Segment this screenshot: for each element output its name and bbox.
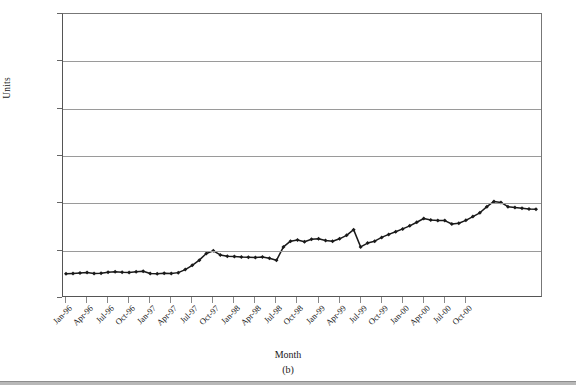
data-point-marker [169,272,173,276]
figure-caption: (b) [0,364,576,375]
x-tick-mark [465,297,466,303]
data-point-marker [527,207,531,211]
x-tick-mark [423,297,424,303]
data-point-marker [303,240,307,244]
data-point-marker [520,206,524,210]
data-point-marker [225,254,229,258]
x-tick-mark [318,297,319,303]
data-point-marker [64,272,68,276]
data-point-marker [436,219,440,223]
data-point-marker [134,270,138,274]
data-point-marker [324,238,328,242]
y-tick-mark [57,60,62,61]
x-tick-mark [339,297,340,303]
x-tick-mark [360,297,361,303]
y-tick-mark [57,297,62,298]
y-tick-mark [57,108,62,109]
y-tick-mark [57,13,62,14]
plot-area [62,13,542,297]
x-tick-mark [86,297,87,303]
data-point-marker [99,271,103,275]
y-tick-mark [57,250,62,251]
data-point-marker [429,218,433,222]
data-point-marker [317,237,321,241]
data-point-marker [71,271,75,275]
data-point-marker [113,270,117,274]
data-point-marker [260,255,264,259]
data-point-marker [295,238,299,242]
data-point-marker [239,255,243,259]
series-line-units [66,201,536,273]
x-tick-mark [65,297,66,303]
data-point-marker [92,272,96,276]
x-tick-mark [402,297,403,303]
data-point-marker [155,272,159,276]
data-point-marker [232,255,236,259]
data-point-marker [394,230,398,234]
x-tick-mark [444,297,445,303]
data-point-marker [162,271,166,275]
data-point-marker [85,270,89,274]
y-axis-title: Units [2,53,12,123]
data-point-marker [267,256,271,260]
x-tick-mark [381,297,382,303]
data-point-marker [127,270,131,274]
gridline [63,203,541,204]
data-point-marker [457,221,461,225]
y-tick-mark [57,202,62,203]
gridline [63,109,541,110]
gridline [63,251,541,252]
series-markers [64,199,538,275]
data-point-marker [106,270,110,274]
gridline [63,61,541,62]
figure-container: Units 050010001500200025003000 Jan-96Apr… [0,0,576,387]
data-point-marker [120,270,124,274]
data-point-marker [310,237,314,241]
data-point-marker [246,255,250,259]
y-tick-mark [57,155,62,156]
x-axis-title: Month [0,349,576,360]
data-point-marker [513,206,517,210]
data-point-marker [141,269,145,273]
data-point-marker [253,255,257,259]
data-point-marker [331,239,335,243]
gridline [63,156,541,157]
footer-rule [0,381,576,385]
data-point-marker [534,207,538,211]
data-point-marker [78,271,82,275]
data-point-marker [148,272,152,276]
